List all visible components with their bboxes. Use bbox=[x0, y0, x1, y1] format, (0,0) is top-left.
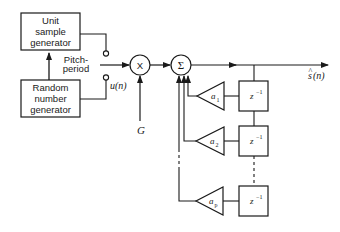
unit-sample-label-3: generator bbox=[30, 37, 71, 48]
ap-label: a bbox=[209, 196, 214, 206]
random-number-generator-block: Random number generator bbox=[21, 80, 80, 117]
speech-synthesis-block-diagram: Unit sample generator Random number gene… bbox=[0, 0, 340, 232]
summer-node: Σ bbox=[171, 55, 191, 75]
switch-contact-bottom bbox=[103, 75, 108, 80]
coefficient-a2-amplifier: a 2 bbox=[196, 127, 224, 155]
delay-1-exp: −1 bbox=[256, 89, 262, 95]
a1-label: a bbox=[211, 91, 216, 101]
delay-1-z: z bbox=[249, 91, 254, 101]
switch-contact-top bbox=[103, 51, 108, 56]
unit-sample-label-2: sample bbox=[35, 26, 66, 37]
coefficient-a1-amplifier: a 1 bbox=[197, 82, 224, 110]
a2-label: a bbox=[210, 136, 215, 146]
coefficient-ap-amplifier: a p bbox=[196, 187, 223, 215]
a2-feedback-arrow bbox=[184, 76, 196, 141]
delay-p-exp: −1 bbox=[256, 194, 262, 200]
unit-sample-label-1: Unit bbox=[42, 15, 59, 26]
random-number-label-3: generator bbox=[30, 104, 71, 115]
excitation-label: u(n) bbox=[110, 80, 127, 92]
unit-sample-generator-block: Unit sample generator bbox=[21, 13, 80, 50]
multiply-symbol: X bbox=[137, 60, 144, 71]
random-number-label-1: Random bbox=[33, 82, 69, 93]
ap-subscript: p bbox=[215, 202, 218, 208]
random-number-label-2: number bbox=[34, 93, 66, 104]
a1-feedback-arrow bbox=[188, 76, 197, 96]
delay-2-z: z bbox=[249, 136, 254, 146]
a1-subscript: 1 bbox=[217, 97, 220, 103]
sum-symbol: Σ bbox=[178, 59, 184, 71]
a2-subscript: 2 bbox=[216, 142, 219, 148]
output-label: s ^ (n) bbox=[308, 67, 325, 82]
output-hat: ^ bbox=[309, 67, 313, 76]
delay-block-2: z −1 bbox=[239, 126, 268, 156]
delay-block-p: z −1 bbox=[239, 186, 268, 216]
gain-label: G bbox=[137, 124, 145, 136]
output-argument: (n) bbox=[313, 70, 325, 82]
multiplier-node: X bbox=[130, 55, 150, 75]
ap-feedback-lower bbox=[179, 170, 196, 201]
delay-p-z: z bbox=[249, 196, 254, 206]
delay-2-exp: −1 bbox=[256, 134, 262, 140]
delay-block-1: z −1 bbox=[239, 81, 268, 111]
pitch-label-2: period bbox=[63, 63, 89, 74]
